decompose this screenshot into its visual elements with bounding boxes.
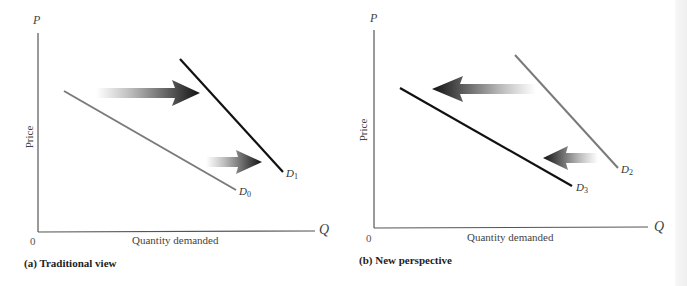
x-axis-a xyxy=(38,231,315,232)
demand-shift-diagram xyxy=(0,0,687,286)
y-axis-label-a: Price xyxy=(23,122,35,152)
curve-label-d0-sub: 0 xyxy=(247,190,251,199)
demand-curve-d3 xyxy=(400,88,572,186)
curve-label-d1: D1 xyxy=(286,167,298,181)
y-axis-var-b: P xyxy=(370,11,377,26)
x-axis-var-b: Q xyxy=(654,219,664,235)
x-axis-label-b: Quantity demanded xyxy=(467,231,553,243)
shift-left-arrow-upper xyxy=(432,76,536,102)
curve-label-d0-name: D xyxy=(239,185,247,197)
curve-label-d0: D0 xyxy=(239,185,251,199)
demand-curve-d0 xyxy=(64,91,236,190)
curve-label-d3: D3 xyxy=(576,181,588,195)
caption-a: (a) Traditional view xyxy=(24,257,116,269)
panel-a xyxy=(38,33,315,232)
shift-right-arrow-lower xyxy=(206,150,262,174)
curve-label-d3-sub: 3 xyxy=(584,186,588,195)
panel-b xyxy=(374,30,648,228)
curve-label-d1-sub: 1 xyxy=(294,172,298,181)
demand-curve-d1 xyxy=(180,59,283,172)
x-axis-label-a: Quantity demanded xyxy=(132,234,218,246)
y-axis-label-b: Price xyxy=(357,115,369,145)
shift-left-arrow-lower xyxy=(543,146,598,170)
curve-label-d2-sub: 2 xyxy=(629,168,633,177)
origin-label-a: 0 xyxy=(30,235,36,247)
origin-label-b: 0 xyxy=(366,232,372,244)
x-axis-var-a: Q xyxy=(319,222,329,238)
curve-label-d2: D2 xyxy=(621,163,633,177)
curve-label-d3-name: D xyxy=(576,181,584,193)
x-axis-b xyxy=(374,227,648,228)
curve-label-d1-name: D xyxy=(286,167,294,179)
caption-b: (b) New perspective xyxy=(359,254,452,266)
curve-label-d2-name: D xyxy=(621,163,629,175)
y-axis-var-a: P xyxy=(33,13,40,28)
shift-right-arrow-upper xyxy=(96,80,200,106)
